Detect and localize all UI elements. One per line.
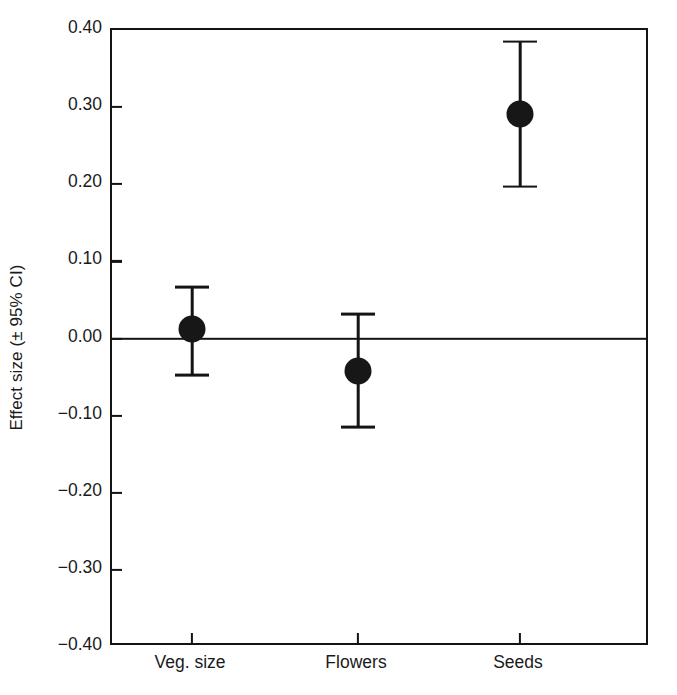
data-point-marker [179,316,206,343]
data-point-marker [507,101,534,128]
y-tick-mark [112,492,122,494]
x-tick-label: Veg. size [154,652,225,673]
effect-size-chart: Effect size (± 95% CI) 0.400.300.200.100… [0,0,677,695]
y-tick-label: 0.40 [30,19,102,37]
y-tick-mark [112,569,122,571]
error-bar-cap-lower [175,373,209,376]
error-bar-cap-lower [503,185,537,188]
y-tick-label: 0.00 [30,328,102,346]
y-tick-label: −0.30 [30,559,102,577]
x-tick-label: Flowers [325,652,386,673]
y-tick-mark [112,183,122,185]
error-bar-cap-upper [341,312,375,315]
error-bar-cap-upper [175,285,209,288]
y-tick-label: −0.20 [30,482,102,500]
y-tick-mark [112,260,122,262]
y-tick-mark [112,106,122,108]
x-tick-mark [519,633,521,643]
x-axis-tick-labels: Veg. sizeFlowersSeeds [110,652,648,682]
y-tick-mark [112,337,122,339]
plot-area [110,28,648,645]
x-tick-label: Seeds [493,652,543,673]
y-tick-label: 0.10 [30,251,102,269]
y-tick-label: −0.40 [30,636,102,654]
data-point-marker [345,357,372,384]
error-bar-cap-lower [341,426,375,429]
y-tick-mark [112,415,122,417]
y-axis-tick-labels: 0.400.300.200.100.00−0.10−0.20−0.30−0.40 [28,0,102,695]
error-bar-cap-upper [503,40,537,43]
y-tick-label: 0.30 [30,96,102,114]
x-tick-mark [357,633,359,643]
x-tick-mark [191,633,193,643]
y-tick-label: 0.20 [30,174,102,192]
y-tick-label: −0.10 [30,405,102,423]
